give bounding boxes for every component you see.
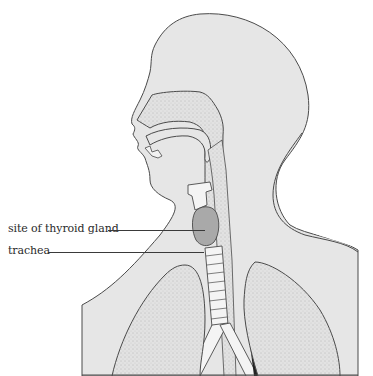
label-thyroid: site of thyroid gland xyxy=(8,222,119,235)
leader-line-trachea xyxy=(48,252,204,253)
label-trachea: trachea xyxy=(8,244,50,257)
thyroid-gland xyxy=(192,207,218,246)
anatomy-diagram xyxy=(0,0,373,376)
leader-line-thyroid xyxy=(108,230,205,231)
